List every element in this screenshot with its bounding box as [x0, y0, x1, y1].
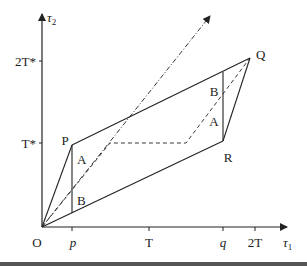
y-tick-label-2T-star: 2T*: [15, 54, 36, 69]
diagram-canvas: τ2 τ1 O 2T* T* p T q 2T P Q R A B B A: [0, 0, 307, 266]
region-label-left-A: A: [77, 152, 87, 167]
origin-label: O: [32, 235, 41, 250]
point-label-Q: Q: [256, 47, 266, 62]
point-label-R: R: [224, 150, 233, 165]
region-label-left-B: B: [77, 193, 86, 208]
y-tick-label-T-star: T*: [22, 136, 36, 151]
x-tick-label-T: T: [145, 235, 153, 250]
edge-R-Q: [223, 58, 250, 141]
x-axis-label: τ1: [283, 235, 292, 252]
phase-diagram: τ2 τ1 O 2T* T* p T q 2T P Q R A B B A: [0, 0, 307, 266]
y-axis-label: τ2: [47, 10, 56, 27]
x-tick-label-p: p: [69, 235, 77, 250]
bottom-divider: [0, 262, 307, 266]
diagonal-dashdot-arrow: [42, 16, 210, 227]
region-label-right-A: A: [209, 114, 219, 129]
x-tick-label-2T: 2T: [248, 235, 263, 250]
x-tick-label-q: q: [220, 235, 227, 250]
point-label-P: P: [61, 133, 68, 148]
region-label-right-B: B: [210, 84, 219, 99]
